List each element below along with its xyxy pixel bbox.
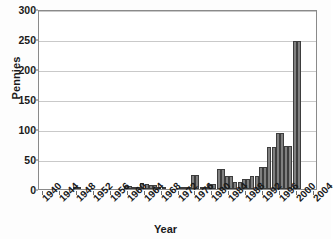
- bar: [297, 41, 301, 189]
- y-tick-label: 300: [0, 4, 36, 16]
- y-tick-label: 100: [0, 124, 36, 136]
- x-axis-title: Year: [0, 223, 331, 235]
- y-tick-label: 200: [0, 64, 36, 76]
- y-tick-label: 50: [0, 154, 36, 166]
- plot-area: [38, 10, 317, 190]
- y-axis-title: Pennies: [10, 38, 22, 118]
- bar-series: [39, 11, 316, 189]
- y-tick-label: 250: [0, 34, 36, 46]
- y-tick-label: 0: [0, 184, 36, 196]
- y-tick-label: 150: [0, 94, 36, 106]
